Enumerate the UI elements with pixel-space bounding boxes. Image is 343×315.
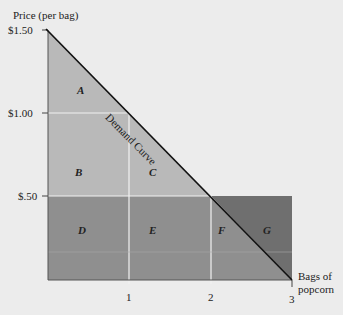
x-tick-2: 2 (208, 291, 214, 303)
region-label-f: F (218, 224, 225, 236)
x-tick-1: 1 (126, 291, 132, 303)
x-tick-3: 3 (289, 293, 295, 305)
y-tick-150: $1.50 (8, 24, 33, 36)
y-axis-label: Price (per bag) (13, 9, 78, 21)
region-label-g: G (263, 224, 271, 236)
chart-canvas (0, 0, 343, 315)
region-label-d: D (78, 224, 86, 236)
y-tick-100: $1.00 (8, 107, 33, 119)
region-label-a: A (77, 84, 84, 96)
x-axis-label-line2: popcorn (298, 283, 334, 295)
region-label-c: C (149, 166, 156, 178)
x-axis-label-line1: Bags of (298, 270, 332, 282)
region-label-b: B (75, 166, 82, 178)
region-label-e: E (149, 224, 156, 236)
y-tick-050: $.50 (18, 190, 37, 202)
